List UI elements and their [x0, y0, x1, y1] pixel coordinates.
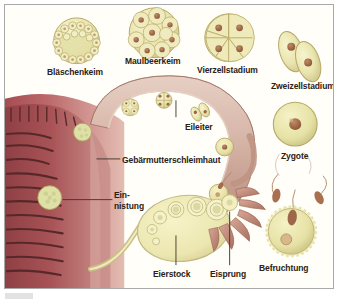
two-cell-illustration [274, 28, 326, 85]
label-blastocyst: Bläschenkeim [47, 67, 103, 77]
zygote-illustration [273, 102, 317, 146]
label-ovulation: Eisprung [210, 269, 246, 279]
label-morula: Maulbeerkeim [125, 56, 181, 66]
label-fallopian-tube: Eileiter [185, 122, 213, 132]
label-two-cell: Zweizellstadium [271, 81, 334, 91]
page-scrap-artifact [5, 293, 33, 299]
label-implantation-line2: nistung [114, 201, 144, 211]
four-cell-illustration [205, 14, 255, 62]
label-fertilization: Befruchtung [259, 263, 308, 273]
morula-illustration [128, 7, 180, 58]
illustration-svg [5, 5, 333, 288]
label-ovary: Eierstock [153, 269, 190, 279]
label-zygote: Zygote [281, 151, 308, 161]
label-endometrium: Gebärmutterschleimhaut [122, 155, 220, 165]
blastocyst-illustration [53, 18, 101, 64]
label-implantation-line1: Ein- [114, 190, 130, 200]
illustration-frame: Bläschenkeim Maulbeerkeim Vierzellstadiu… [4, 4, 334, 289]
figure-container: Bläschenkeim Maulbeerkeim Vierzellstadiu… [0, 0, 340, 303]
label-four-cell: Vierzellstadium [197, 65, 258, 75]
fertilization-illustration [266, 174, 326, 256]
anatomical-illustration [5, 5, 333, 288]
ovulation-egg [222, 195, 238, 211]
